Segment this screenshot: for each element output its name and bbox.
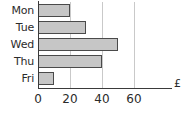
bar-mon <box>38 4 70 17</box>
category-label-thu: Thu <box>0 55 34 68</box>
category-label-tue: Tue <box>0 21 34 34</box>
bar-fri <box>38 72 54 85</box>
x-axis-unit-label: £ <box>174 78 181 90</box>
category-label-wed: Wed <box>0 38 34 51</box>
bar-thu <box>38 55 102 68</box>
y-axis-line <box>38 1 39 89</box>
x-tick-label-20: 20 <box>58 92 82 106</box>
x-axis-line <box>38 88 172 89</box>
x-tick-label-60: 60 <box>122 92 146 106</box>
bar-chart: Mon Tue Wed Thu Fri 0 20 40 60 £ <box>0 0 193 115</box>
category-label-fri: Fri <box>0 72 34 85</box>
category-label-mon: Mon <box>0 4 34 17</box>
bar-tue <box>38 21 86 34</box>
plot-area <box>38 2 169 88</box>
x-tick-label-0: 0 <box>26 92 50 106</box>
x-tick-label-40: 40 <box>90 92 114 106</box>
bar-wed <box>38 38 118 51</box>
gridline-60 <box>134 2 135 88</box>
